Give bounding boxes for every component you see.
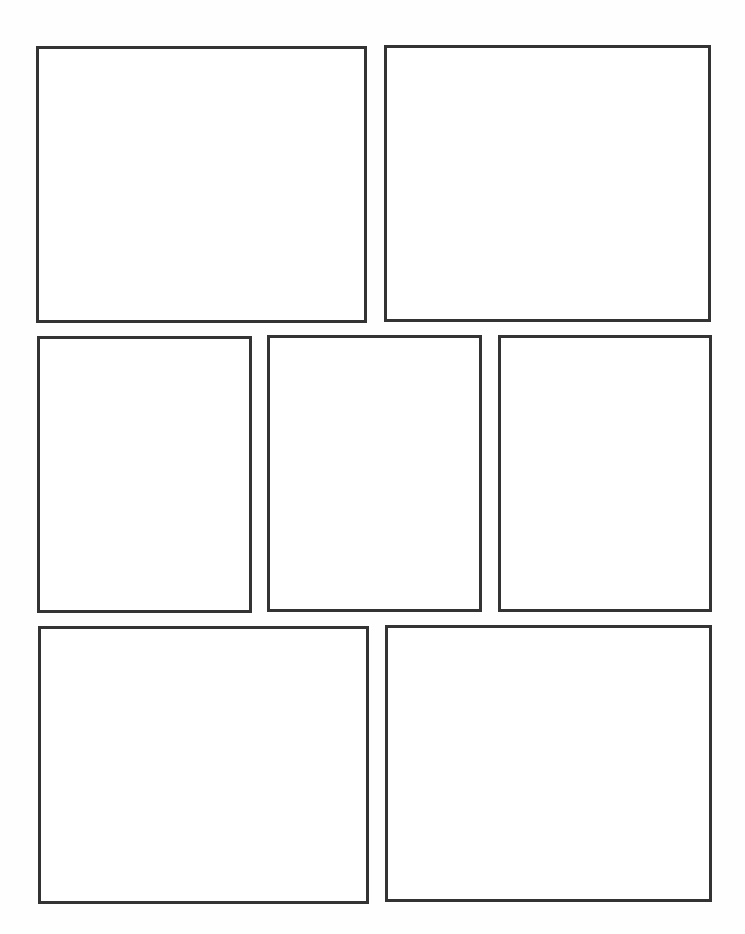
panel-5 [498,335,712,612]
panel-1 [36,46,367,323]
panel-2 [384,45,711,322]
panel-7 [385,625,712,902]
panel-6 [38,626,369,904]
panel-3 [37,336,252,613]
panel-4 [267,335,482,612]
comic-page [0,0,745,934]
